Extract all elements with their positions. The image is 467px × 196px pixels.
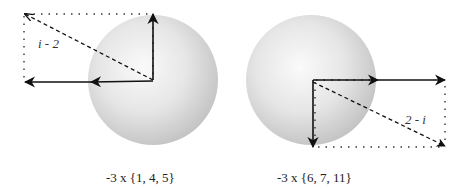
- right-vector-label: 2 - i: [405, 112, 426, 127]
- left-figure: i - 2: [24, 14, 218, 145]
- left-caption: -3 x {1, 4, 5}: [106, 170, 175, 186]
- left-left-arrow-inner: [91, 81, 153, 82]
- right-figure: 2 - i: [246, 15, 445, 147]
- right-caption: -3 x {6, 7, 11}: [277, 170, 352, 186]
- left-vector-label: i - 2: [38, 36, 59, 51]
- diagram-canvas: i - 2 2 - i: [0, 0, 467, 196]
